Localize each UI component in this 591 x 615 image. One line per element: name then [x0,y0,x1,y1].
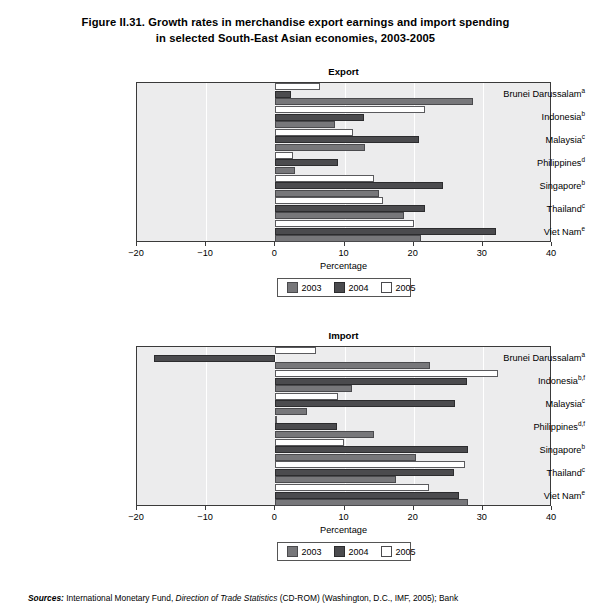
category-label: Malaysiac [461,397,591,409]
legend-item-2003: 2003 [287,546,322,557]
x-axis-tick [344,506,345,510]
legend-swatch-2003 [287,546,298,557]
bar-2003 [275,385,352,392]
legend-swatch-2003 [287,282,298,293]
sources-italic-title: Direction of Trade Statistics [176,593,278,603]
figure-title-line2: in selected South-East Asian economies, … [0,30,591,46]
x-axis-tick-label: 30 [462,512,502,522]
gridline [206,83,207,241]
bar-2005 [275,175,374,182]
bar-2004 [275,469,453,476]
legend-label-2003: 2003 [302,547,322,557]
category-label: Singaporeb [461,443,591,455]
x-axis-tick [482,242,483,246]
category-label: Brunei Darussalama [461,87,591,99]
bar-2003 [275,362,429,369]
legend-label-2005: 2005 [396,547,416,557]
bar-2004 [275,378,467,385]
x-axis-tick [551,506,552,510]
bar-2005 [275,129,353,136]
x-axis-tick [205,506,206,510]
bar-2004 [275,423,337,430]
bar-2005 [275,484,429,491]
category-label: Singaporeb [461,179,591,191]
x-axis-tick-label: 40 [531,248,571,258]
x-axis-tick-label: 20 [393,248,433,258]
x-axis-tick [136,242,137,246]
x-axis-tick-label: −10 [185,248,225,258]
bar-2004 [275,182,443,189]
bar-2004 [275,400,455,407]
category-label: Indonesiab,f [461,374,591,386]
sources-note: Sources: International Monetary Fund, Di… [28,592,573,604]
bar-2003 [275,476,395,483]
x-axis-title: Percentage [136,525,551,535]
category-label: Philippinesd,f [461,420,591,432]
import-chart-panel: ImportBrunei DarussalamaIndonesiab,fMala… [0,330,591,580]
bar-2004 [275,114,364,121]
category-label: Thailandc [461,466,591,478]
bar-2004 [154,355,275,362]
x-axis-tick-label: −20 [116,512,156,522]
chart-legend: 200320042005 [277,278,411,297]
bar-2003 [275,431,374,438]
sources-label: Sources: [28,593,64,603]
bar-2005 [275,393,337,400]
x-axis-tick-label: −10 [185,512,225,522]
x-axis-tick [344,242,345,246]
export-chart-panel: ExportBrunei DarussalamaIndonesiabMalays… [0,66,591,316]
figure-title: Figure II.31. Growth rates in merchandis… [0,14,591,46]
bar-2003 [275,212,404,219]
legend-swatch-2004 [334,282,345,293]
legend-item-2005: 2005 [381,546,416,557]
x-axis-tick [274,242,275,246]
category-label: Brunei Darussalama [461,351,591,363]
legend-swatch-2005 [381,546,392,557]
figure-title-line1: Figure II.31. Growth rates in merchandis… [82,16,510,28]
bar-2005 [275,461,465,468]
category-label: Viet Name [461,225,591,237]
category-label: Indonesiab [461,110,591,122]
bar-2005 [275,197,382,204]
x-axis-tick [136,506,137,510]
legend-label-2005: 2005 [396,283,416,293]
bar-2004 [275,159,338,166]
sources-text-2: (CD-ROM) (Washington, D.C., IMF, 2005); … [277,593,458,603]
x-axis-title: Percentage [136,261,551,271]
category-label: Thailandc [461,202,591,214]
x-axis-tick-label: 40 [531,512,571,522]
bar-2004 [275,91,291,98]
bar-2003 [275,235,421,242]
x-axis-tick [413,506,414,510]
bar-2003 [275,499,468,506]
bar-2005 [275,83,319,90]
chart-legend: 200320042005 [277,542,411,561]
legend-item-2004: 2004 [334,282,369,293]
x-axis-tick-label: 10 [324,512,364,522]
x-axis-tick-label: 10 [324,248,364,258]
sources-text-1: International Monetary Fund, [64,593,176,603]
x-axis-tick [274,506,275,510]
bar-2003 [275,144,364,151]
bar-2003 [275,98,473,105]
bar-2003 [275,454,415,461]
chart-title: Export [136,66,551,77]
bar-2005 [275,106,425,113]
bar-2005 [275,347,316,354]
category-label: Malaysiac [461,133,591,145]
x-axis-tick-label: 20 [393,512,433,522]
bar-2004 [275,136,418,143]
bar-2004 [275,492,459,499]
bar-2003 [275,167,295,174]
bar-2003 [275,121,334,128]
legend-item-2005: 2005 [381,282,416,293]
category-label: Viet Name [461,489,591,501]
x-axis-tick-label: 0 [254,512,294,522]
legend-label-2004: 2004 [349,547,369,557]
legend-item-2003: 2003 [287,282,322,293]
bar-2005 [275,439,343,446]
chart-title: Import [136,330,551,341]
x-axis-tick [482,506,483,510]
x-axis-tick-label: 0 [254,248,294,258]
x-axis-tick-label: 30 [462,248,502,258]
